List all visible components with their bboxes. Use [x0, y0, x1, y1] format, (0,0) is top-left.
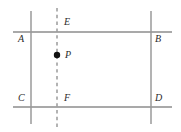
geometry-figure: A B C D E F P — [0, 0, 181, 132]
point-P-dot — [54, 52, 60, 58]
label-F: F — [64, 93, 70, 103]
label-D: D — [155, 93, 162, 103]
label-P: P — [65, 50, 71, 60]
label-A: A — [18, 34, 24, 44]
figure-canvas — [0, 0, 181, 132]
label-C: C — [18, 93, 25, 103]
label-E: E — [64, 17, 70, 27]
label-B: B — [155, 34, 161, 44]
